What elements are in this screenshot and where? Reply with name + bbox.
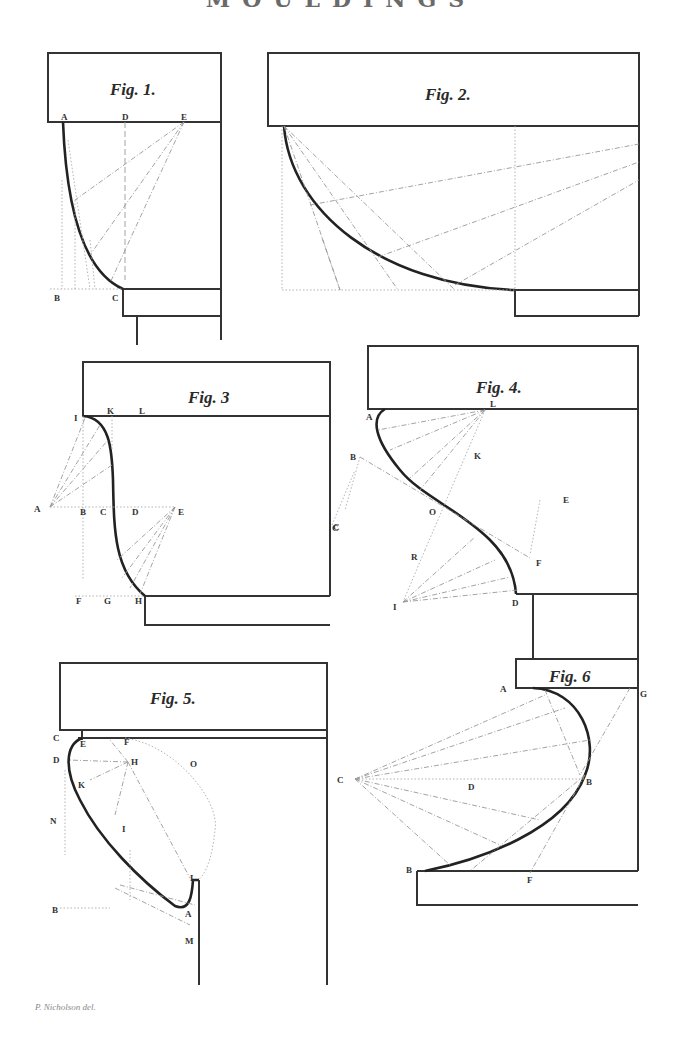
figure-1: Fig. 1. A D E B C <box>48 53 221 345</box>
fig4-point-a: A <box>366 412 373 422</box>
fig1-point-d: D <box>122 112 129 122</box>
fig3-point-c: C <box>100 507 107 517</box>
fig1-point-a: A <box>61 112 68 122</box>
fig5-point-k: K <box>78 780 85 790</box>
figure-1-label: Fig. 1. <box>109 80 156 99</box>
figure-5: Fig. 5. C E F D H O K N I L B A M <box>50 663 327 985</box>
fig4-point-r: R <box>411 552 418 562</box>
fig4-point-l: L <box>490 399 496 409</box>
fig4-point-o: O <box>429 507 436 517</box>
fig5-point-d: D <box>53 755 60 765</box>
fig6-point-c: C <box>337 775 344 785</box>
fig6-point-b: B <box>406 865 412 875</box>
fig4-point-d: D <box>512 598 519 608</box>
fig1-point-b: B <box>54 293 60 303</box>
figure-3-label: Fig. 3 <box>187 388 230 407</box>
fig3-point-g: G <box>104 596 111 606</box>
fig4-point-b: B <box>350 452 356 462</box>
fig4-point-k: K <box>474 451 481 461</box>
figure-6: Fig. 6 A G C D B B F <box>337 659 647 905</box>
fig5-point-m: M <box>185 936 194 946</box>
fig6-point-g: G <box>640 689 647 699</box>
figure-4: Fig. 4. A L B K C O E R F I D <box>332 346 638 659</box>
figure-2: Fig. 2. <box>268 53 639 316</box>
fig4-point-c: C <box>332 523 339 533</box>
figure-5-label: Fig. 5. <box>149 689 196 708</box>
fig3-point-k: K <box>107 406 114 416</box>
fig1-point-e: E <box>181 112 187 122</box>
fig5-point-n: N <box>50 816 57 826</box>
fig3-point-h: H <box>135 596 142 606</box>
fig6-point-f: F <box>527 875 533 885</box>
fig4-point-i: I <box>393 602 397 612</box>
fig3-point-e: E <box>178 507 184 517</box>
fig5-point-o: O <box>190 759 197 769</box>
fig6-point-d: D <box>468 782 475 792</box>
fig5-point-e: E <box>80 739 86 749</box>
fig5-point-a: A <box>185 909 192 919</box>
engraver-credit: P. Nicholson del. <box>35 1002 96 1012</box>
fig5-point-h: H <box>131 757 138 767</box>
fig6-point-b-mid: B <box>586 777 592 787</box>
fig5-point-f: F <box>124 737 130 747</box>
fig3-point-d: D <box>132 507 139 517</box>
fig3-point-a: A <box>34 504 41 514</box>
figure-4-label: Fig. 4. <box>475 378 522 397</box>
fig6-point-a: A <box>500 684 507 694</box>
fig5-point-c: C <box>53 733 60 743</box>
fig5-point-l: L <box>190 873 196 883</box>
fig5-point-i: I <box>122 824 126 834</box>
figure-6-label: Fig. 6 <box>548 667 591 686</box>
fig3-point-i: I <box>74 413 78 423</box>
fig4-point-e: E <box>563 495 569 505</box>
fig3-point-f: F <box>76 596 82 606</box>
fig1-point-c: C <box>112 293 119 303</box>
mouldings-plate: Fig. 1. A D E B C Fig. 2. <box>0 0 682 1043</box>
fig5-point-b: B <box>52 905 58 915</box>
figure-2-label: Fig. 2. <box>424 85 471 104</box>
figure-3: Fig. 3 I K L A B C D E F G H C <box>34 362 355 625</box>
fig4-point-f: F <box>536 558 542 568</box>
fig3-point-b: B <box>80 507 86 517</box>
fig3-point-l: L <box>139 406 145 416</box>
